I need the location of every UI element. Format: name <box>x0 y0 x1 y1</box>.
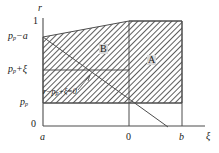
x-tick-b: b <box>179 132 184 142</box>
y-tick-zero: 0 <box>31 119 36 129</box>
constraint-eq-tail: +ξ=0 <box>59 87 77 96</box>
constraint-equation-label: r−pp+ξ=0 <box>43 88 77 96</box>
x-tick-zero: 0 <box>126 132 131 142</box>
region-label-b: B <box>99 44 108 54</box>
y-tick-pp-plus-xi-tail: +ξ <box>16 63 27 74</box>
region-label-a: A <box>147 55 156 65</box>
y-tick-pp-sub: p <box>25 101 28 107</box>
y-tick-pp-minus-a: pp−a <box>8 31 28 41</box>
y-tick-one: 1 <box>33 16 38 26</box>
x-axis-name: ξ <box>206 131 210 141</box>
region-diagram: r ξ 1 pp−a pp+ξ pp 0 a 0 b B A r−pp+ξ=0 <box>0 0 219 153</box>
y-axis-name: r <box>38 3 42 13</box>
y-tick-pp: pp <box>20 97 28 107</box>
x-tick-a: a <box>40 132 45 142</box>
y-tick-pp-plus-xi: pp+ξ <box>8 64 27 74</box>
y-tick-pp-minus-a-tail: −a <box>16 30 28 41</box>
constraint-eq-lead: r−p <box>43 87 56 96</box>
